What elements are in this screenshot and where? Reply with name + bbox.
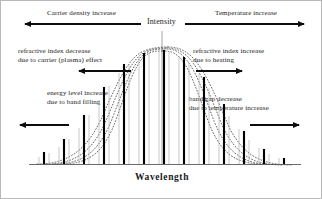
- plot-vector-layer: [1, 1, 322, 199]
- envelope-curve-1b: [162, 51, 263, 164]
- envelope-curve-4b: [168, 47, 293, 165]
- mode-lines: [39, 50, 284, 164]
- envelope-curve-4: [37, 47, 168, 164]
- figure-container: Carrier density increase Temperature inc…: [0, 0, 322, 199]
- envelope-curve-2b: [164, 49, 273, 165]
